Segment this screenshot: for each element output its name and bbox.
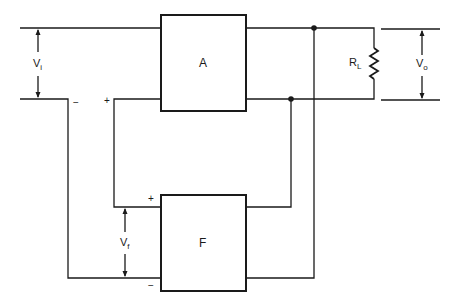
feedback-amplifier-diagram: A F Vi Vf Vo RL − + + −	[0, 0, 458, 305]
f-top-wire	[246, 99, 291, 207]
vi-label: Vi	[33, 58, 42, 72]
vo-arrowhead-top	[420, 30, 425, 36]
vi-arrowhead-bottom	[36, 92, 41, 98]
vf-arrowhead-bottom	[123, 271, 128, 277]
resistor-rl	[370, 48, 378, 79]
junction-dot-bottom	[288, 96, 294, 102]
vf-label: Vf	[120, 237, 130, 251]
a-output-bottom-wire	[246, 79, 374, 99]
circuit-wiring	[0, 0, 458, 305]
f-plus-sign: +	[148, 194, 154, 204]
f-minus-sign: −	[148, 281, 154, 291]
vi-arrowhead-top	[36, 29, 41, 35]
f-bottom-wire	[246, 28, 314, 278]
a-output-top-wire	[246, 28, 374, 48]
input-minus-wire	[20, 99, 161, 278]
junction-dot-top	[311, 25, 317, 31]
input-plus-wire	[114, 99, 161, 207]
block-f-label: F	[199, 237, 206, 249]
vo-arrowhead-bottom	[420, 93, 425, 99]
vo-label: Vo	[416, 58, 428, 72]
rl-label: RL	[349, 57, 361, 71]
block-a-label: A	[199, 57, 207, 69]
input-plus-sign: +	[104, 96, 110, 106]
vf-arrowhead-top	[123, 208, 128, 214]
input-minus-sign: −	[73, 98, 79, 108]
